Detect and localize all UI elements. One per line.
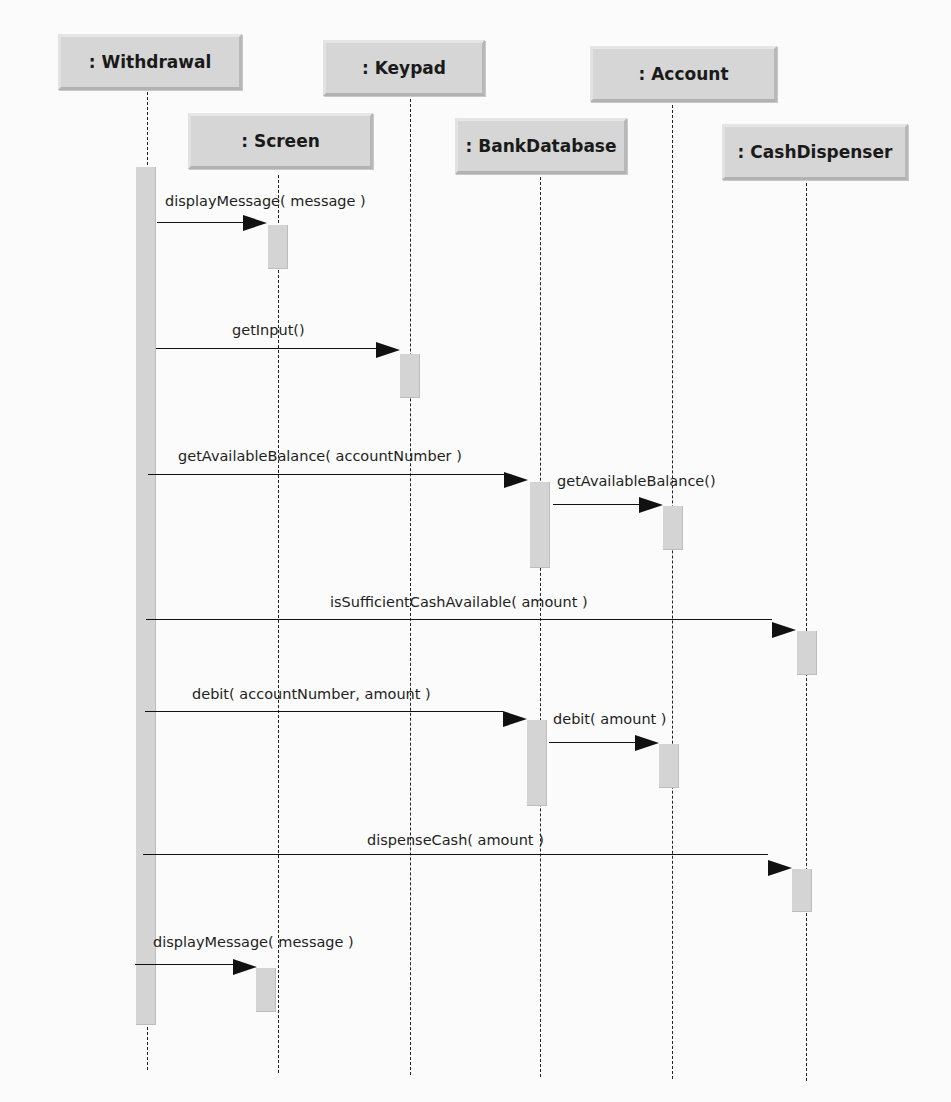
message-label: getAvailableBalance() xyxy=(557,473,716,489)
activation-withdrawal xyxy=(136,167,156,1025)
activation-screen-1 xyxy=(268,225,288,269)
activation-bankdatabase-2 xyxy=(527,720,547,806)
message-label: displayMessage( message ) xyxy=(153,934,354,950)
object-label: : Withdrawal xyxy=(89,52,212,72)
object-label: : Keypad xyxy=(362,58,446,78)
activation-account-2 xyxy=(659,744,679,788)
activation-bankdatabase-1 xyxy=(530,482,550,568)
object-label: : BankDatabase xyxy=(465,136,616,156)
lifeline-keypad xyxy=(410,99,411,1075)
arrowhead-icon xyxy=(376,342,400,358)
message-arrow-line xyxy=(145,711,503,712)
arrowhead-icon xyxy=(639,497,663,513)
arrowhead-icon xyxy=(233,959,257,975)
object-account: : Account xyxy=(590,46,777,102)
arrowhead-icon xyxy=(768,860,792,876)
message-label: getInput() xyxy=(232,322,305,338)
message-arrow-line xyxy=(156,348,376,349)
object-keypad: : Keypad xyxy=(323,40,485,96)
activation-cashdispenser-1 xyxy=(797,631,817,675)
object-screen: : Screen xyxy=(188,113,373,169)
activation-keypad xyxy=(400,354,420,398)
lifeline-bankdatabase xyxy=(540,177,541,1077)
object-bankdatabase: : BankDatabase xyxy=(455,118,627,174)
message-arrow-line xyxy=(146,619,772,620)
message-label: displayMessage( message ) xyxy=(165,193,366,209)
arrowhead-icon xyxy=(243,215,267,231)
message-label: isSufficientCashAvailable( amount ) xyxy=(330,594,588,610)
activation-screen-2 xyxy=(256,968,276,1012)
message-label: debit( accountNumber, amount ) xyxy=(192,686,431,702)
message-arrow-line xyxy=(157,222,243,223)
object-label: : Screen xyxy=(241,131,320,151)
object-cashdispenser: : CashDispenser xyxy=(722,124,908,180)
message-arrow-line xyxy=(553,504,639,505)
message-arrow-line xyxy=(135,964,233,965)
arrowhead-icon xyxy=(504,472,528,488)
message-label: dispenseCash( amount ) xyxy=(367,832,544,848)
activation-account-1 xyxy=(663,506,683,550)
arrowhead-icon xyxy=(503,711,527,727)
activation-cashdispenser-2 xyxy=(792,869,812,912)
object-label: : CashDispenser xyxy=(738,142,893,162)
message-arrow-line xyxy=(143,854,768,855)
object-withdrawal: : Withdrawal xyxy=(58,34,242,90)
arrowhead-icon xyxy=(772,622,796,638)
sequence-diagram: : Withdrawal : Keypad : Account : Screen… xyxy=(0,0,951,1102)
message-label: getAvailableBalance( accountNumber ) xyxy=(178,448,462,464)
message-label: debit( amount ) xyxy=(553,711,667,727)
message-arrow-line xyxy=(549,742,635,743)
message-arrow-line xyxy=(148,474,504,475)
object-label: : Account xyxy=(638,64,728,84)
lifeline-account xyxy=(672,105,673,1079)
arrowhead-icon xyxy=(635,735,659,751)
